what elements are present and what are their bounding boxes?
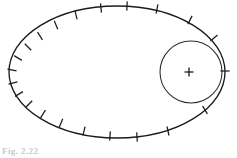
position-tick xyxy=(38,32,43,40)
orbit-diagram-canvas xyxy=(0,0,237,158)
center-marker-group xyxy=(185,68,194,77)
position-tick xyxy=(210,35,217,41)
position-tick xyxy=(203,106,208,114)
position-tick xyxy=(75,11,77,20)
position-tick xyxy=(15,92,23,97)
position-tick xyxy=(110,131,111,140)
position-tick-group xyxy=(7,1,229,141)
position-tick xyxy=(59,119,63,128)
position-tick xyxy=(14,56,22,61)
position-tick xyxy=(25,44,31,51)
caption-remnant: Fig. 2.22 xyxy=(2,146,72,156)
position-tick xyxy=(41,110,46,118)
position-tick xyxy=(137,132,138,141)
position-tick xyxy=(83,127,85,136)
position-tick xyxy=(101,3,102,12)
position-tick xyxy=(26,101,32,108)
position-tick xyxy=(156,4,158,13)
position-tick xyxy=(54,21,58,30)
orbit-figure: Fig. 2.22 xyxy=(0,0,237,158)
